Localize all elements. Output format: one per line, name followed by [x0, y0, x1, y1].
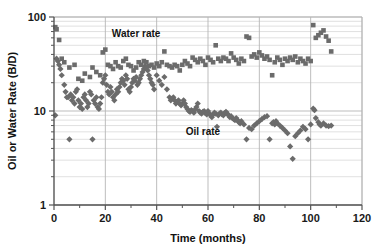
data-point [308, 59, 313, 64]
x-tick-label: 0 [51, 212, 57, 224]
data-point [267, 136, 273, 142]
data-point [154, 72, 160, 78]
data-point [83, 71, 88, 76]
data-point [303, 61, 308, 66]
data-point [188, 64, 193, 69]
data-point [90, 65, 95, 70]
x-tick-label: 60 [202, 212, 214, 224]
data-point [59, 72, 65, 78]
data-point [162, 49, 167, 54]
data-point [164, 86, 170, 92]
x-tick-label: 100 [301, 212, 319, 224]
annotation-oil-rate: Oil rate [186, 126, 221, 137]
data-point [152, 65, 157, 70]
y-tick-label: 100 [28, 11, 46, 23]
data-point [324, 34, 329, 39]
x-tick-label: 40 [151, 212, 163, 224]
data-point [175, 64, 180, 69]
data-point [290, 156, 296, 162]
data-point [72, 63, 77, 68]
data-point [226, 59, 231, 64]
data-point [124, 56, 129, 61]
data-point [129, 64, 134, 69]
data-point [134, 65, 139, 70]
x-tick-label: 120 [353, 212, 371, 224]
data-point [242, 59, 247, 64]
data-point [311, 23, 316, 28]
data-point [161, 74, 167, 80]
x-tick-label: 20 [99, 212, 111, 224]
data-point [243, 136, 249, 142]
x-axis-title: Time (months) [170, 232, 246, 244]
data-point [88, 75, 93, 80]
data-point [160, 60, 165, 65]
data-point [111, 67, 116, 72]
data-point [66, 136, 72, 142]
data-point [272, 60, 277, 65]
y-tick-label: 1 [40, 199, 46, 211]
y-axis-title: Oil or Water Rate (B/D) [6, 52, 18, 170]
data-point [229, 51, 234, 56]
data-point [270, 73, 275, 78]
data-point [237, 61, 242, 66]
data-point [211, 60, 216, 65]
y-tick-label: 10 [34, 105, 46, 117]
scatter-plot: 110100020406080100120Time (months)Oil or… [0, 0, 383, 252]
data-point [54, 27, 59, 32]
data-point [118, 65, 123, 70]
data-point [103, 47, 108, 52]
data-point [321, 28, 326, 33]
data-point [62, 89, 68, 95]
chart-figure: 110100020406080100120Time (months)Oil or… [0, 0, 383, 252]
data-point [177, 68, 182, 73]
data-point [278, 58, 283, 63]
data-point [293, 54, 298, 59]
data-point [80, 78, 85, 83]
data-point [329, 49, 334, 54]
data-point [62, 60, 67, 65]
data-point [247, 36, 252, 41]
data-point [57, 38, 62, 43]
data-point [308, 121, 314, 127]
data-point [98, 73, 103, 78]
data-point [254, 55, 259, 60]
annotation-water-rate: Water rate [112, 28, 161, 39]
data-point [267, 58, 272, 63]
data-point [89, 136, 95, 142]
data-point [98, 94, 104, 100]
data-point [213, 43, 218, 48]
data-point [67, 65, 72, 70]
x-tick-label: 80 [253, 212, 265, 224]
data-point [203, 63, 208, 68]
data-point [280, 63, 285, 68]
data-point [326, 38, 331, 43]
